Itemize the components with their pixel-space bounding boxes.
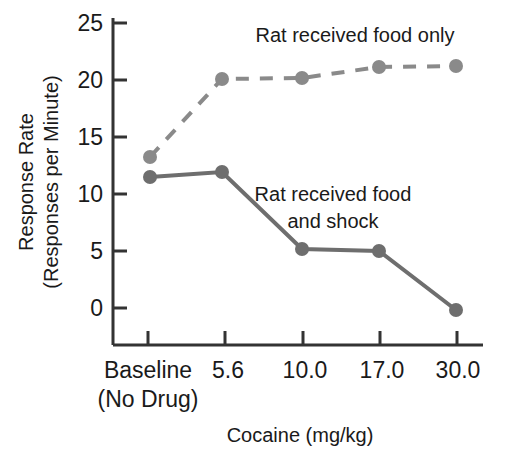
annotation-food-only: Rat received food only bbox=[255, 24, 454, 46]
y-tick-label-25: 25 bbox=[77, 10, 103, 36]
x-tick-label-10-0: 10.0 bbox=[283, 357, 328, 383]
data-point bbox=[295, 71, 309, 85]
data-point bbox=[295, 242, 309, 256]
y-tick-label-5: 5 bbox=[90, 238, 103, 264]
y-axis-tick-labels: 25 20 15 10 5 0 bbox=[77, 10, 103, 321]
chart-plot-area: 25 20 15 10 5 0 Baseline (No Drug) 5.6 1… bbox=[0, 0, 505, 455]
x-tick-label-baseline: Baseline bbox=[104, 357, 192, 383]
x-axis-title: Cocaine (mg/kg) bbox=[227, 424, 374, 446]
x-tick-label-5-6: 5.6 bbox=[212, 357, 244, 383]
x-axis-ticks bbox=[148, 331, 457, 345]
y-tick-label-10: 10 bbox=[77, 181, 103, 207]
y-axis-ticks bbox=[113, 23, 127, 308]
chart-figure: 25 20 15 10 5 0 Baseline (No Drug) 5.6 1… bbox=[0, 0, 505, 455]
annotation-food-and-shock-line2: and shock bbox=[287, 210, 379, 232]
data-point bbox=[215, 165, 229, 179]
annotation-food-and-shock-line1: Rat received food bbox=[255, 183, 412, 205]
y-axis-title: Response Rate (Responses per Minute) bbox=[15, 75, 62, 288]
data-point bbox=[449, 303, 463, 317]
y-tick-label-20: 20 bbox=[77, 67, 103, 93]
data-point bbox=[215, 72, 229, 86]
data-point bbox=[143, 150, 157, 164]
series-food-only bbox=[143, 59, 463, 164]
data-point bbox=[143, 170, 157, 184]
data-point bbox=[372, 60, 386, 74]
data-point bbox=[372, 244, 386, 258]
x-tick-label-17-0: 17.0 bbox=[360, 357, 405, 383]
data-point bbox=[449, 59, 463, 73]
y-axis-title-line2: (Responses per Minute) bbox=[40, 75, 62, 288]
y-tick-label-15: 15 bbox=[77, 124, 103, 150]
x-axis-tick-labels: Baseline (No Drug) 5.6 10.0 17.0 30.0 bbox=[98, 357, 481, 412]
x-tick-sublabel-baseline: (No Drug) bbox=[98, 386, 199, 412]
y-axis-title-line1: Response Rate bbox=[15, 113, 37, 251]
x-tick-label-30-0: 30.0 bbox=[436, 357, 481, 383]
y-tick-label-0: 0 bbox=[90, 295, 103, 321]
